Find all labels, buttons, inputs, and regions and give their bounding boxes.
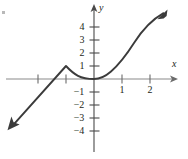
y-tick-label-neg3: −3 [72,113,86,123]
coordinate-plot [0,0,188,159]
y-tick-label-neg1: −1 [72,87,86,97]
y-tick-label-2: 2 [78,48,86,58]
y-tick-label-neg2: −2 [72,100,86,110]
curve-end-arrowhead [157,10,167,20]
function-curve [12,13,163,126]
graph-figure: 1 2 4 3 2 1 −1 −2 −3 −4 x y [0,0,188,159]
y-tick-label-1: 1 [78,61,86,71]
x-axis-label: x [172,59,176,69]
x-tick-label-1: 1 [118,85,126,95]
y-axis-label: y [99,3,103,13]
x-tick-label-2: 2 [146,85,154,95]
y-tick-label-neg4: −4 [72,126,86,136]
y-tick-label-4: 4 [78,22,86,32]
y-tick-label-3: 3 [78,35,86,45]
